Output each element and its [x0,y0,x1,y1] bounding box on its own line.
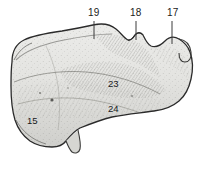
pit-mark-a [39,92,41,94]
surface-label-15: 15 [27,116,38,126]
pit-mark-b [67,87,69,89]
surface-label-24: 24 [108,104,119,114]
bone-illustration [0,0,202,169]
anatomical-figure: 19 18 17 23 24 15 [0,0,202,169]
callout-label-17: 17 [167,8,179,18]
pit-mark-c [131,95,133,97]
callout-label-18: 18 [130,8,142,18]
surface-label-23: 23 [108,79,119,89]
callout-label-19: 19 [88,8,100,18]
foramen-mark [50,98,53,101]
